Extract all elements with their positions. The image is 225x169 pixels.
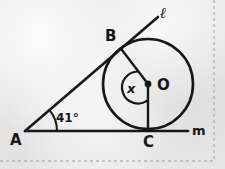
point-label-A: A [10,133,22,148]
radius-OB [122,50,148,84]
line-label-m: m [192,124,206,137]
line-label-l: ℓ [160,6,166,21]
angle-value-A: 41° [56,112,79,124]
geometry-figure: A B C O ℓ m 41° x [0,0,225,169]
center-point-O [145,81,152,88]
geometry-drawing [0,0,225,169]
angle-value-x: x [127,82,135,95]
point-label-C: C [143,135,154,150]
line-l-ray [25,17,158,131]
point-label-O: O [157,78,170,93]
point-label-B: B [105,29,116,44]
